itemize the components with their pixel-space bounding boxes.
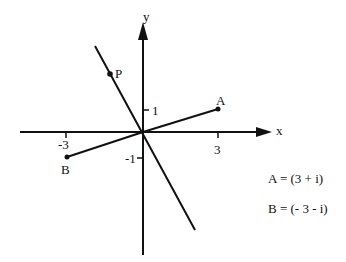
point-p-label: P xyxy=(115,67,122,80)
tick-label-x-neg3: -3 xyxy=(58,138,69,151)
point-a-label: A xyxy=(216,94,225,107)
point-b xyxy=(65,155,70,160)
equation-b: B = (- 3 - i) xyxy=(268,202,328,215)
tick-label-y-1: 1 xyxy=(152,104,159,117)
y-axis-arrow-icon xyxy=(138,22,148,40)
equation-a: A = (3 + i) xyxy=(268,172,323,185)
x-axis-label: x xyxy=(276,124,283,137)
point-p xyxy=(107,71,113,77)
tick-label-y-neg1: -1 xyxy=(125,152,136,165)
point-b-label: B xyxy=(61,163,70,176)
y-axis-label: y xyxy=(143,10,150,23)
tick-label-x-3: 3 xyxy=(214,143,221,156)
x-axis-arrow-icon xyxy=(256,127,272,137)
complex-plane-diagram xyxy=(0,0,346,262)
